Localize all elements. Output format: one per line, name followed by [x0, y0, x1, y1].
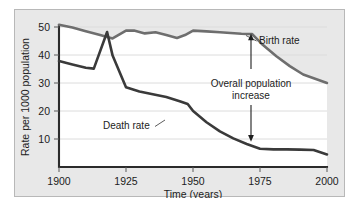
ytick-label-30: 30	[38, 77, 50, 89]
demographic-transition-chart: 50 40 30 20 10 1900 1925 1950 1975 2000 …	[15, 10, 346, 198]
birth-rate-label: Birth rate	[259, 35, 300, 46]
figure-panel: 50 40 30 20 10 1900 1925 1950 1975 2000 …	[14, 9, 345, 197]
death-rate-label: Death rate	[103, 120, 150, 131]
ytick-label-50: 50	[38, 21, 50, 33]
ytick-label-20: 20	[38, 105, 50, 117]
xtick-label-1975: 1975	[248, 175, 272, 187]
xtick-label-1900: 1900	[47, 175, 71, 187]
gap-label-line2: increase	[232, 90, 270, 101]
y-axis-title: Rate per 1000 population	[19, 38, 31, 156]
xtick-label-1925: 1925	[114, 175, 138, 187]
x-axis-title: Time (years)	[164, 188, 223, 198]
ytick-label-40: 40	[38, 49, 50, 61]
chart-canvas: 50 40 30 20 10 1900 1925 1950 1975 2000 …	[15, 10, 346, 198]
xtick-label-1950: 1950	[181, 175, 205, 187]
xtick-label-2000: 2000	[315, 175, 339, 187]
gap-label-line1: Overall population	[211, 78, 292, 89]
ytick-label-10: 10	[38, 133, 50, 145]
